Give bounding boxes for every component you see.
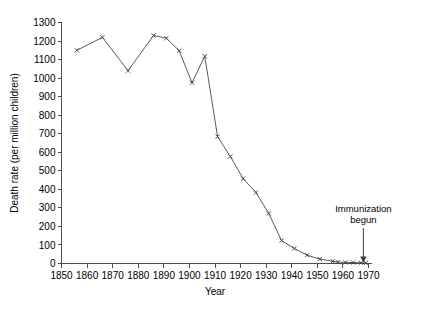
x-tick-label: 1890 <box>153 270 176 281</box>
y-tick-label: 700 <box>39 128 56 139</box>
x-tick-label: 1860 <box>76 270 99 281</box>
y-axis-title: Death rate (per million children) <box>9 73 20 213</box>
x-tick-label: 1880 <box>127 270 150 281</box>
y-tick-label: 1000 <box>33 73 56 84</box>
x-tick-label: 1960 <box>332 270 355 281</box>
y-tick-label: 100 <box>39 240 56 251</box>
x-tick-label: 1850 <box>50 270 73 281</box>
annotation-label-line2: begun <box>350 214 376 225</box>
x-tick-label: 1900 <box>178 270 201 281</box>
chart-figure: 0100200300400500600700800900100011001200… <box>0 0 425 313</box>
y-tick-label: 1100 <box>34 54 56 65</box>
x-tick-label: 1910 <box>204 270 227 281</box>
y-tick-label: 1200 <box>33 36 56 47</box>
y-tick-label: 1300 <box>33 17 56 28</box>
chart-background <box>0 0 425 313</box>
measles-death-rate-line-chart: 0100200300400500600700800900100011001200… <box>0 0 425 313</box>
y-tick-label: 200 <box>39 221 56 232</box>
x-tick-label: 1870 <box>102 270 125 281</box>
y-tick-label: 800 <box>39 110 56 121</box>
y-tick-label: 900 <box>39 91 56 102</box>
y-tick-label: 0 <box>50 258 56 269</box>
y-tick-label: 400 <box>39 184 56 195</box>
x-tick-label: 1950 <box>306 270 329 281</box>
annotation-label-line1: Immunization <box>335 203 392 214</box>
y-tick-label: 600 <box>39 147 56 158</box>
x-tick-label: 1930 <box>255 270 278 281</box>
x-tick-label: 1940 <box>281 270 304 281</box>
y-tick-label: 300 <box>39 202 56 213</box>
x-axis-title: Year <box>205 286 226 297</box>
x-tick-label: 1970 <box>357 270 380 281</box>
x-tick-label: 1920 <box>229 270 252 281</box>
y-tick-label: 500 <box>39 165 56 176</box>
